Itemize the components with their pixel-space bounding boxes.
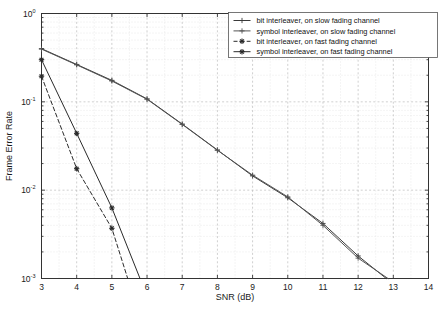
y-axis-title: Frame Error Rate bbox=[4, 111, 14, 181]
legend: bit interleaver, on slow fading channels… bbox=[229, 13, 438, 58]
x-tick-label: 13 bbox=[389, 282, 399, 292]
x-tick-label: 12 bbox=[353, 282, 363, 292]
x-tick-label: 14 bbox=[424, 282, 434, 292]
x-tick-label: 11 bbox=[319, 282, 328, 292]
x-tick-label: 7 bbox=[180, 282, 185, 292]
legend-label: bit interleaver, on fast fading channel bbox=[257, 37, 378, 46]
legend-label: symbol interleaver, on fast fading chann… bbox=[257, 47, 393, 56]
frame-error-rate-chart: 34567891011121314 10010-110-210-3 SNR (d… bbox=[0, 0, 445, 310]
x-tick-label: 4 bbox=[74, 282, 79, 292]
x-tick-label: 3 bbox=[39, 282, 44, 292]
legend-label: bit interleaver, on slow fading channel bbox=[257, 16, 381, 25]
legend-label: symbol interleaver, on slow fading chann… bbox=[257, 27, 396, 36]
x-tick-label: 6 bbox=[145, 282, 150, 292]
x-tick-label: 8 bbox=[215, 282, 220, 292]
chart-page: 34567891011121314 10010-110-210-3 SNR (d… bbox=[0, 0, 445, 310]
x-tick-label: 9 bbox=[250, 282, 255, 292]
x-axis-title: SNR (dB) bbox=[216, 292, 255, 302]
x-tick-label: 10 bbox=[283, 282, 293, 292]
x-tick-label: 5 bbox=[109, 282, 114, 292]
